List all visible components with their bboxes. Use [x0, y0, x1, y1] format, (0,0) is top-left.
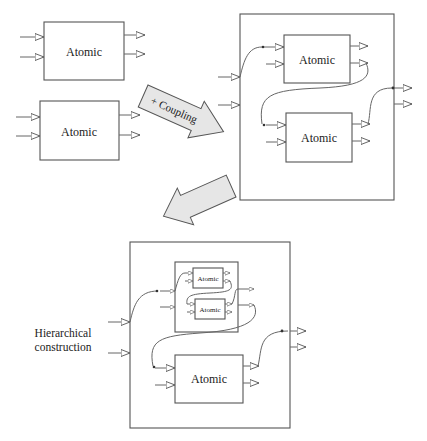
- diagram-canvas: Atomic Atomic + Coupling Atomic Atomic: [0, 0, 427, 441]
- atomic-label: Atomic: [198, 275, 219, 283]
- coupled-model: Atomic Atomic: [218, 14, 412, 200]
- atomic-label: Atomic: [191, 372, 227, 386]
- hierarchical-caption: Hierarchical construction: [35, 327, 92, 353]
- hierarchical-label-line2: construction: [35, 341, 92, 353]
- coupling-arrow: + Coupling: [135, 78, 232, 150]
- atomic-label: Atomic: [200, 306, 221, 314]
- atomic-model-2: Atomic: [16, 101, 140, 160]
- atomic-label: Atomic: [299, 53, 335, 67]
- hierarchical-label-line1: Hierarchical: [35, 327, 92, 339]
- atomic-label: Atomic: [301, 131, 337, 145]
- hierarchy-arrow: [155, 168, 239, 235]
- atomic-model-1: Atomic: [20, 22, 145, 80]
- hierarchical-model: Atomic Atomic Atomic: [108, 242, 306, 428]
- atomic-label: Atomic: [61, 125, 97, 139]
- atomic-label: Atomic: [66, 45, 102, 59]
